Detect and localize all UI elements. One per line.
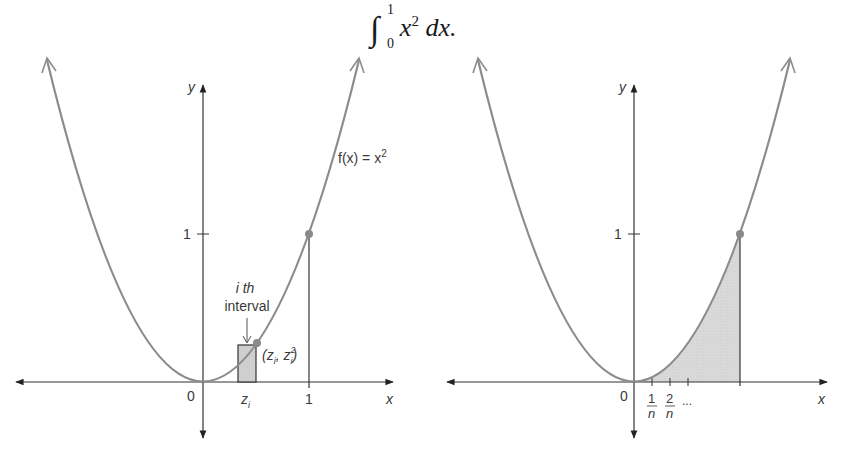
point-zi-label: (zi, z2i) bbox=[262, 345, 297, 366]
right-point-1-1 bbox=[736, 230, 744, 238]
function-label: f(x) = x2 bbox=[338, 148, 387, 166]
right-graph: y x 0 1 1 n 2 n ... bbox=[447, 58, 827, 438]
left-y-axis-label: y bbox=[187, 79, 196, 95]
frac1-denominator: n bbox=[648, 406, 655, 421]
shaded-area bbox=[634, 234, 740, 382]
right-x-axis-label: x bbox=[817, 391, 826, 407]
diagram-canvas: y x 0 1 1 f(x) = x2 i th interval zi (zi… bbox=[0, 0, 841, 453]
left-point-1-1 bbox=[305, 230, 313, 238]
right-origin-label: 0 bbox=[620, 388, 628, 404]
fraction-2-over-n: 2 n bbox=[665, 391, 675, 421]
frac2-numerator: 2 bbox=[666, 391, 673, 406]
fraction-1-over-n: 1 n bbox=[647, 391, 657, 421]
right-y-axis-label: y bbox=[618, 79, 627, 95]
ellipsis: ... bbox=[682, 394, 692, 408]
zi-label: zi bbox=[240, 391, 251, 410]
frac2-denominator: n bbox=[666, 406, 673, 421]
left-x-axis-label: x bbox=[385, 391, 394, 407]
left-y-tick-label: 1 bbox=[183, 226, 191, 242]
left-origin-label: 0 bbox=[187, 388, 195, 404]
left-x-tick-label: 1 bbox=[305, 391, 313, 407]
right-y-tick-label: 1 bbox=[614, 226, 622, 242]
left-graph: y x 0 1 1 f(x) = x2 i th interval zi (zi… bbox=[16, 58, 394, 438]
left-point-zi bbox=[253, 339, 261, 347]
frac1-numerator: 1 bbox=[648, 391, 655, 406]
ith-label: i th interval bbox=[224, 280, 269, 314]
